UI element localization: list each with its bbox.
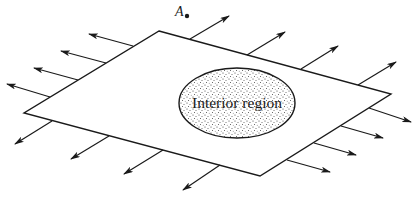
- interior-region-label: Interior region: [192, 94, 282, 112]
- point-a-label: A: [175, 4, 184, 20]
- diagram-canvas: A Interior region: [0, 0, 416, 202]
- arrows-bottom-left: [15, 121, 220, 190]
- point-a-dot: [185, 14, 189, 18]
- arrows-bottom-right: [287, 108, 411, 172]
- arrows-top-left: [7, 34, 133, 97]
